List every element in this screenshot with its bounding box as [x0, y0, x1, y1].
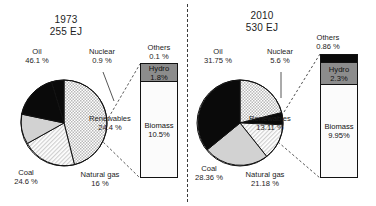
label-natural-gas-2010: Natural gas 21.18 % [236, 170, 294, 188]
bar-hydro-name: Hydro [329, 65, 349, 74]
label-oil-pct: 46.1 % [15, 56, 59, 65]
label-coal-pct: 24.6 % [5, 177, 47, 186]
label-nuclear-1973: Nuclear 0.9 % [80, 47, 124, 65]
label-coal-1973: Coal 24.6 % [5, 168, 47, 186]
label-renewables-2010: Renewables 13.11 % [242, 114, 298, 132]
label-oil-name: Oil [15, 47, 59, 56]
label-others-pct: 0.86 % [304, 42, 352, 51]
renewables-breakout-bar-2010: Hydro 2.3% Biomass 9.95% [320, 54, 358, 178]
label-others-name: Others [304, 33, 352, 42]
renewables-breakout-bar-1973: Hydro 1.8% Biomass 10.5% [140, 63, 178, 178]
label-oil-1973: Oil 46.1 % [15, 47, 59, 65]
panel-1973: 1973 255 EJ Oil 46.1 % [0, 0, 188, 206]
label-natural-gas-1973: Natural gas 16 % [72, 170, 128, 188]
bar-segment-hydro-2010: Hydro 2.3% [321, 63, 357, 85]
label-coal-name: Coal [186, 164, 232, 173]
label-renewables-pct: 13.11 % [242, 123, 298, 132]
label-oil-name: Oil [194, 47, 242, 56]
label-nuclear-2010: Nuclear 5.6 % [256, 47, 304, 65]
panel-2010: 2010 530 EJ Oil 31.75 % Nuclea [188, 0, 376, 206]
label-coal-2010: Coal 28.36 % [186, 164, 232, 182]
bar-segment-others-2010 [321, 55, 357, 63]
label-coal-name: Coal [5, 168, 47, 177]
label-natural-gas-pct: 21.18 % [236, 179, 294, 188]
figure-root: 1973 255 EJ Oil 46.1 % [0, 0, 376, 206]
bar-biomass-pct: 10.5% [148, 130, 170, 139]
bar-segment-biomass-2010: Biomass 9.95% [321, 85, 357, 177]
label-natural-gas-name: Natural gas [72, 170, 128, 179]
label-others-pct: 0.1 % [138, 52, 180, 61]
bar-biomass-pct: 9.95% [328, 131, 350, 140]
label-nuclear-pct: 5.6 % [256, 56, 304, 65]
title-energy: 530 EJ [168, 22, 356, 34]
label-nuclear-name: Nuclear [80, 47, 124, 56]
label-nuclear-name: Nuclear [256, 47, 304, 56]
bar-biomass-name: Biomass [324, 122, 353, 131]
bar-segment-biomass-1973: Biomass 10.5% [141, 82, 177, 177]
label-nuclear-pct: 0.9 % [80, 56, 124, 65]
bar-hydro-name: Hydro [149, 64, 169, 73]
label-others-2010: Others 0.86 % [304, 33, 352, 51]
title-year: 2010 [168, 10, 356, 22]
chart-title-1973: 1973 255 EJ [0, 14, 160, 37]
bar-hydro-pct: 1.8% [150, 73, 167, 82]
chart-title-2010: 2010 530 EJ [168, 10, 356, 33]
label-renewables-pct: 24.4 % [84, 123, 136, 132]
bar-biomass-name: Biomass [144, 121, 173, 130]
bar-hydro-pct: 2.3% [330, 74, 347, 83]
label-natural-gas-pct: 16 % [72, 179, 128, 188]
label-coal-pct: 28.36 % [186, 173, 232, 182]
label-others-1973: Others 0.1 % [138, 43, 180, 61]
title-year: 1973 [0, 14, 160, 26]
bar-segment-hydro-1973: Hydro 1.8% [141, 64, 177, 82]
label-renewables-name: Renewables [242, 114, 298, 123]
label-others-name: Others [138, 43, 180, 52]
label-natural-gas-name: Natural gas [236, 170, 294, 179]
label-renewables-name: Renewables [84, 114, 136, 123]
label-renewables-1973: Renewables 24.4 % [84, 114, 136, 132]
label-oil-2010: Oil 31.75 % [194, 47, 242, 65]
title-energy: 255 EJ [0, 26, 160, 38]
label-oil-pct: 31.75 % [194, 56, 242, 65]
